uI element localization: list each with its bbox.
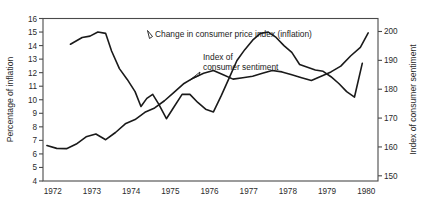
left-tick-6: 6 [32,150,37,159]
y-axis-title: Percentage of inflation [5,57,15,143]
x-tick-1974: 1974 [122,187,141,196]
left-tick-15: 15 [28,28,38,37]
left-axis-ticks [39,19,43,182]
x-tick-1977: 1977 [240,187,259,196]
x-tick-1980: 1980 [357,187,376,196]
right-tick-160: 160 [384,143,398,152]
left-tick-7: 7 [32,136,37,145]
plot-frame [43,19,378,182]
chart-svg: 45678910111213141516 150160170180190200 … [0,0,427,212]
left-tick-9: 9 [32,109,37,118]
left-tick-8: 8 [32,123,37,132]
x-axis-tick-labels: 197219731974197519761977197819791980 [44,187,376,196]
left-axis-tick-labels: 45678910111213141516 [28,15,38,187]
left-tick-14: 14 [28,42,38,51]
right-axis-tick-labels: 150160170180190200 [384,27,398,180]
x-tick-1976: 1976 [200,187,219,196]
left-tick-12: 12 [28,69,38,78]
sentiment-annotation-label-line1: Index of [203,52,233,62]
left-tick-5: 5 [32,163,37,172]
left-tick-16: 16 [28,15,38,24]
left-tick-4: 4 [32,177,37,186]
series-line-sentiment [47,33,368,149]
sentiment-annotation-label-line2: consumer sentiment [203,62,279,72]
right-tick-190: 190 [384,56,398,65]
x-tick-1978: 1978 [279,187,298,196]
cpi-label-leader [148,31,153,39]
inflation-sentiment-chart: 45678910111213141516 150160170180190200 … [0,0,427,212]
x-tick-1979: 1979 [318,187,337,196]
x-tick-1975: 1975 [161,187,180,196]
x-tick-1972: 1972 [44,187,63,196]
left-tick-10: 10 [28,96,38,105]
series-line-cpi [70,32,362,119]
right-tick-200: 200 [384,27,398,36]
right-tick-150: 150 [384,172,398,181]
x-tick-1973: 1973 [83,187,102,196]
y2-axis-title: Index of consumer sentiment [408,44,418,155]
sentiment-label-leader [190,72,200,80]
right-tick-170: 170 [384,114,398,123]
right-tick-180: 180 [384,85,398,94]
right-axis-ticks [378,31,382,175]
cpi-annotation-label: Change in consumer price index (inflatio… [155,29,312,39]
left-tick-13: 13 [28,55,38,64]
left-tick-11: 11 [29,82,38,91]
